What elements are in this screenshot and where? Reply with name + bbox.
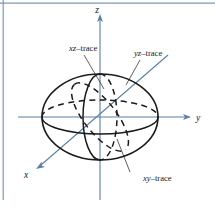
leader-line-xz [84, 55, 104, 89]
trace-label-xy-prefix: xy [142, 173, 151, 183]
trace-yz-right-dashed [74, 74, 138, 149]
axis-z [97, 14, 103, 200]
ellipsoid-traces-figure: z y x xz–trace yz–trace xy–trace [0, 0, 215, 210]
trace-label-xz-suffix: –trace [75, 43, 97, 53]
figure-canvas: z y x xz–trace yz–trace xy–trace [0, 0, 215, 210]
trace-label-xy-suffix: –trace [150, 173, 172, 183]
axis-x [36, 55, 168, 169]
axis-label-z: z [94, 5, 99, 15]
axis-y [18, 114, 191, 120]
axis-label-x: x [23, 170, 29, 180]
trace-label-yz: yz–trace [119, 48, 173, 58]
axis-label-y: y [195, 113, 201, 123]
trace-yz-left-dashed [62, 84, 126, 159]
trace-label-xy: xy–trace [128, 173, 182, 183]
trace-label-xz: xz–trace [54, 43, 108, 53]
trace-label-yz-suffix: –trace [140, 48, 162, 58]
